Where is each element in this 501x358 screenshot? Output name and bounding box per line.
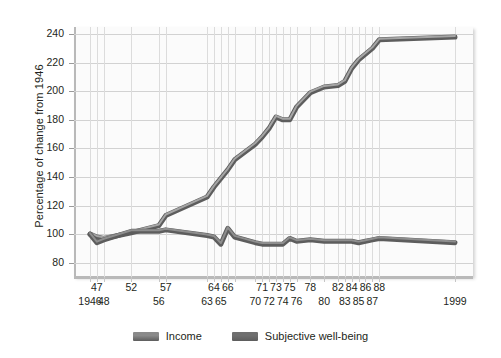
chart-legend: IncomeSubjective well-being [0, 325, 501, 347]
legend-item[interactable]: Subjective well-being [232, 330, 368, 342]
x-tick-label: 72 [263, 295, 275, 307]
x-tick-label: 66 [222, 281, 234, 293]
x-tick-label: 84 [346, 281, 358, 293]
y-tick-label: 200 [34, 86, 64, 95]
y-tick-label: 120 [34, 201, 64, 210]
x-tick-label: 71 [256, 281, 268, 293]
series-lines [74, 27, 473, 277]
legend-item[interactable]: Income [133, 330, 202, 342]
x-tick-label: 78 [305, 281, 317, 293]
x-tick-label: 70 [249, 295, 261, 307]
legend-label: Subjective well-being [265, 330, 368, 342]
legend-label: Income [166, 330, 202, 342]
x-tick-label: 85 [353, 295, 365, 307]
x-tick-label: 73 [270, 281, 282, 293]
x-tick-label: 48 [98, 295, 110, 307]
x-tick-label: 57 [160, 281, 172, 293]
x-tick-label: 52 [125, 281, 137, 293]
x-tick-label: 64 [208, 281, 220, 293]
x-axis-tick-labels: 4752576466717375788284868819464856636570… [0, 277, 501, 317]
x-tick-label: 86 [360, 281, 372, 293]
legend-swatch [232, 332, 258, 341]
series-line-highlight [90, 36, 455, 237]
y-tick-label: 240 [34, 29, 64, 38]
x-tick-label: 87 [367, 295, 379, 307]
x-tick-label: 82 [332, 281, 344, 293]
y-tick-label: 160 [34, 143, 64, 152]
plot-area [74, 27, 473, 277]
x-tick-label: 88 [373, 281, 385, 293]
chart-container: Percentage of change from 1946 801001201… [0, 0, 501, 358]
x-tick-label: 56 [153, 295, 165, 307]
legend-swatch [133, 332, 159, 341]
y-axis-tick-labels: 80100120140160180200220240 [34, 0, 64, 300]
x-tick-label: 74 [277, 295, 289, 307]
y-tick-label: 180 [34, 115, 64, 124]
x-tick-label: 75 [284, 281, 296, 293]
y-tick-label: 100 [34, 229, 64, 238]
y-tick-label: 220 [34, 58, 64, 67]
x-tick-label: 63 [201, 295, 213, 307]
series-line-base [90, 37, 455, 238]
x-tick-label: 1999 [443, 295, 466, 307]
x-tick-label: 76 [291, 295, 303, 307]
x-tick-label: 65 [215, 295, 227, 307]
y-tick-label: 80 [34, 258, 64, 267]
x-tick-label: 83 [339, 295, 351, 307]
x-tick-label: 47 [91, 281, 103, 293]
x-tick-label: 80 [318, 295, 330, 307]
y-tick-label: 140 [34, 172, 64, 181]
